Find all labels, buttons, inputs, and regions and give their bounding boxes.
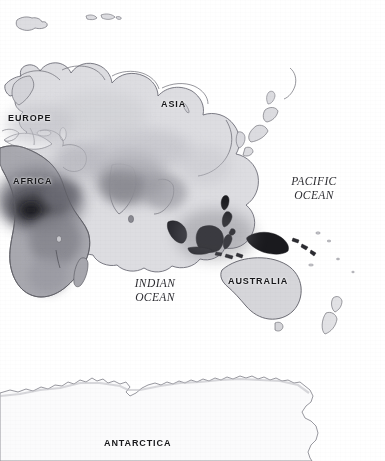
map-canvas xyxy=(0,0,385,461)
svalbard xyxy=(86,15,97,20)
world-map: EUROPE AFRICA ASIA AUSTRALIA ANTARCTICA … xyxy=(0,0,385,461)
tasmania xyxy=(275,322,283,331)
iceland xyxy=(16,17,47,30)
lake-victoria xyxy=(56,236,61,242)
sri-lanka xyxy=(128,215,133,222)
novaya-zemlya-north xyxy=(101,14,121,19)
sea-heat-halo xyxy=(175,209,255,261)
